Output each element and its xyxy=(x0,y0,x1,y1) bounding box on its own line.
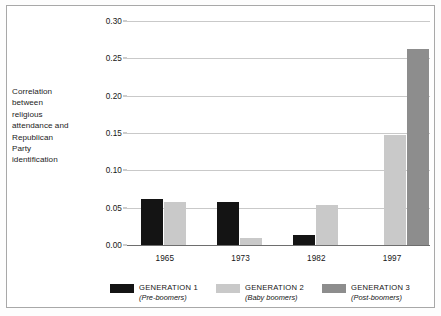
legend-swatch-generation-1 xyxy=(110,284,134,293)
y-axis-tick-label: 0.20 xyxy=(106,91,122,100)
bar xyxy=(384,135,406,246)
legend-title: GENERATION 2 xyxy=(245,283,304,293)
y-axis-tick-label: 0.10 xyxy=(106,166,122,175)
bar xyxy=(240,238,262,245)
y-axis-caption: Correlation between religious attendance… xyxy=(12,86,98,166)
legend-subtitle: (Post-boomers) xyxy=(351,293,410,303)
legend-subtitle: (Baby boomers) xyxy=(245,293,304,303)
legend-subtitle: (Pre-boomers) xyxy=(139,293,198,303)
y-axis-caption-line: Republican xyxy=(12,132,98,143)
y-axis-caption-line: Party xyxy=(12,143,98,154)
legend-swatch-generation-2 xyxy=(216,284,240,293)
legend-item: GENERATION 2(Baby boomers) xyxy=(216,283,304,303)
x-axis-tick-label: 1982 xyxy=(279,254,355,263)
bar xyxy=(293,235,315,245)
bar xyxy=(217,202,239,245)
y-axis-tick-label: 0.00 xyxy=(106,241,122,250)
legend-title: GENERATION 3 xyxy=(351,283,410,293)
y-axis-caption-line: Correlation xyxy=(12,86,98,97)
y-axis-tick-label: 0.25 xyxy=(106,54,122,63)
y-axis-tick-label: 0.15 xyxy=(106,129,122,138)
bar xyxy=(141,199,163,245)
y-axis-caption-line: attendance and xyxy=(12,120,98,131)
legend-text: GENERATION 1(Pre-boomers) xyxy=(139,283,198,303)
x-axis-tick-label: 1965 xyxy=(127,254,203,263)
plot-area: 0.000.050.100.150.200.250.30 19651973198… xyxy=(127,21,430,245)
bar xyxy=(164,202,186,245)
y-axis-tick-label: 0.05 xyxy=(106,203,122,212)
x-axis-tick-label: 1973 xyxy=(203,254,279,263)
bar-group: 1973 xyxy=(203,21,279,245)
x-axis-tick-label: 1997 xyxy=(354,254,430,263)
gridline xyxy=(127,245,430,246)
legend-text: GENERATION 3(Post-boomers) xyxy=(351,283,410,303)
y-axis-tick-label: 0.30 xyxy=(106,17,122,26)
legend-title: GENERATION 1 xyxy=(139,283,198,293)
y-axis-caption-line: identification xyxy=(12,154,98,165)
chart-legend: GENERATION 1(Pre-boomers)GENERATION 2(Ba… xyxy=(110,283,410,303)
bar-group: 1982 xyxy=(279,21,355,245)
legend-text: GENERATION 2(Baby boomers) xyxy=(245,283,304,303)
y-axis-caption-line: between xyxy=(12,97,98,108)
legend-swatch-generation-3 xyxy=(322,284,346,293)
legend-item: GENERATION 3(Post-boomers) xyxy=(322,283,410,303)
chart-figure: Correlation between religious attendance… xyxy=(0,0,441,316)
bar xyxy=(407,49,429,245)
bar xyxy=(316,205,338,245)
bar-group: 1997 xyxy=(354,21,430,245)
legend-item: GENERATION 1(Pre-boomers) xyxy=(110,283,198,303)
bar-group: 1965 xyxy=(127,21,203,245)
y-axis-caption-line: religious xyxy=(12,109,98,120)
